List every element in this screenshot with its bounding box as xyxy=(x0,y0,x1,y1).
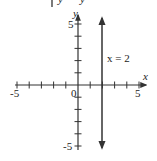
header-fragment-left: y xyxy=(57,0,63,5)
coordinate-plane: y y x -5 0 5 y 5 -5 x = 2 xyxy=(0,0,157,161)
y-axis: y 5 -5 xyxy=(63,7,82,152)
x-axis-label: x xyxy=(142,70,148,82)
header-fragment: y y xyxy=(52,0,85,7)
y-tick-label-5: 5 xyxy=(68,18,74,30)
line-x-equals-2: x = 2 xyxy=(102,18,130,148)
header-fragment-right: y xyxy=(79,0,85,5)
line-label: x = 2 xyxy=(107,52,130,64)
y-tick-label-neg5: -5 xyxy=(63,140,73,152)
x-axis: x -5 0 5 xyxy=(10,70,148,99)
x-tick-label-neg5: -5 xyxy=(10,87,20,99)
x-tick-label-5: 5 xyxy=(135,87,141,99)
